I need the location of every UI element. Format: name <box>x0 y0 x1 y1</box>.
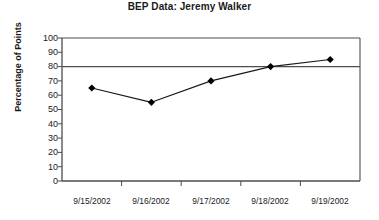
x-tick-marks <box>122 181 301 186</box>
axis-frame <box>62 38 360 181</box>
data-point-marker <box>207 77 214 84</box>
data-point-marker <box>88 84 95 91</box>
chart-figure: BEP Data: Jeremy Walker Percentage of Po… <box>0 0 379 220</box>
data-point-marker <box>267 63 274 70</box>
data-point-marker <box>327 56 334 63</box>
data-point-marker <box>148 99 155 106</box>
plot-area <box>0 0 379 220</box>
